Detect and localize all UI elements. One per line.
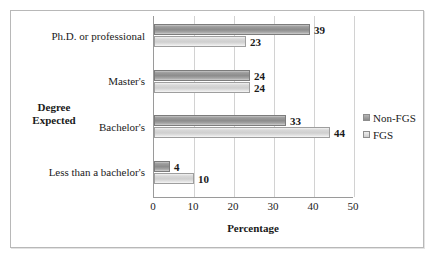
y-axis-tick-label: Master's <box>7 75 145 87</box>
bar-non-fgs-2[interactable] <box>154 115 286 126</box>
y-axis-tick-labels: Ph.D. or professionalMaster'sBachelor'sL… <box>11 11 151 196</box>
x-axis-title: Percentage <box>153 222 353 234</box>
y-axis-tick-label: Bachelor's <box>7 121 145 133</box>
y-axis-tick-label: Less than a bachelor's <box>7 166 145 178</box>
legend-swatch-icon <box>363 114 370 121</box>
bar-value-label: 33 <box>290 116 301 127</box>
gridline <box>354 16 355 197</box>
legend-item-fgs[interactable]: FGS <box>363 126 423 143</box>
bar-value-label: 4 <box>174 162 180 173</box>
bar-fgs-0[interactable] <box>154 36 246 47</box>
bar-non-fgs-3[interactable] <box>154 161 170 172</box>
x-axis-tick-label: 10 <box>188 200 199 213</box>
x-axis-tick-label: 20 <box>228 200 239 213</box>
x-axis-tick-label: 50 <box>348 200 359 213</box>
bar-value-label: 24 <box>254 83 265 94</box>
bar-value-label: 44 <box>334 128 345 139</box>
bar-value-label: 39 <box>314 25 325 36</box>
bar-non-fgs-0[interactable] <box>154 24 310 35</box>
gridline <box>314 16 315 197</box>
bar-non-fgs-1[interactable] <box>154 70 250 81</box>
x-axis-tick-label: 40 <box>308 200 319 213</box>
chart-figure: Degree Expected Ph.D. or professionalMas… <box>10 10 424 248</box>
bar-fgs-1[interactable] <box>154 82 250 93</box>
gridline <box>274 16 275 197</box>
legend-item-non-fgs[interactable]: Non-FGS <box>363 109 423 126</box>
legend-label: FGS <box>373 129 393 141</box>
y-axis-tick-label: Ph.D. or professional <box>7 30 145 42</box>
x-axis-tick-label: 0 <box>150 200 156 213</box>
legend-swatch-icon <box>363 131 370 138</box>
x-axis-tick-label: 30 <box>268 200 279 213</box>
legend-label: Non-FGS <box>373 112 416 124</box>
bar-value-label: 24 <box>254 71 265 82</box>
bar-value-label: 23 <box>250 37 261 48</box>
chart-legend: Non-FGS FGS <box>363 109 423 143</box>
bar-value-label: 10 <box>198 174 209 185</box>
plot-area: 392324243344410 <box>153 16 353 198</box>
x-axis-tick-labels: 01020304050 <box>153 200 363 216</box>
bar-fgs-2[interactable] <box>154 127 330 138</box>
bar-fgs-3[interactable] <box>154 173 194 184</box>
